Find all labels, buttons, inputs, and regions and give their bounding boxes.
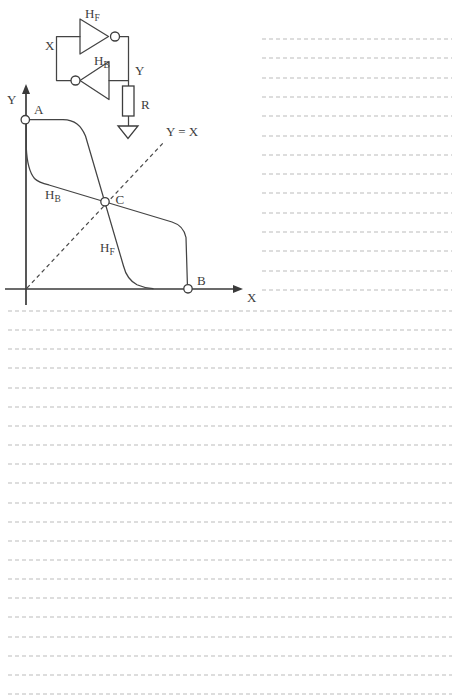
ruled-line: [262, 154, 452, 156]
ruled-line: [8, 329, 452, 331]
ruled-line: [262, 289, 452, 291]
point-b-label: B: [197, 273, 206, 288]
feedback-inverter-bubble-icon: [71, 76, 80, 85]
ruled-line: [262, 231, 452, 233]
ruled-line: [262, 115, 452, 117]
point-a-label: A: [34, 102, 44, 117]
ruled-line: [8, 387, 452, 389]
ruled-line: [8, 463, 452, 465]
y-axis-label: Y: [7, 92, 17, 107]
ruled-line: [8, 521, 452, 523]
ruled-line: [8, 482, 452, 484]
ruled-line: [8, 559, 452, 561]
node-x-label: X: [45, 38, 55, 53]
point-a-marker: [21, 116, 29, 124]
ruled-line: [8, 636, 452, 638]
forward-inverter-label: HF: [85, 6, 100, 23]
transfer-characteristic-graph: Y X Y = X HB HF A B C: [5, 84, 257, 305]
ruled-line: [262, 173, 452, 175]
ruled-line: [262, 192, 452, 194]
ruled-line: [262, 38, 452, 40]
ruled-line: [8, 655, 452, 657]
ruled-line: [262, 57, 452, 59]
y-axis-arrow-icon: [22, 84, 30, 94]
point-c-marker: [101, 198, 109, 206]
forward-curve-label: HF: [100, 240, 115, 257]
ruled-line: [8, 348, 452, 350]
ruled-line: [8, 502, 452, 504]
ruled-line: [262, 250, 452, 252]
resistor-symbol: [123, 86, 135, 116]
latch-circuit-schematic: HF HB X Y R: [45, 6, 150, 139]
notebook-page: HF HB X Y R Y X Y = X HB HF: [0, 0, 458, 697]
ruled-line: [8, 367, 452, 369]
ruled-line: [8, 616, 452, 618]
figure-canvas: HF HB X Y R Y X Y = X HB HF: [0, 0, 260, 312]
identity-line-label: Y = X: [166, 124, 199, 139]
ruled-line: [8, 444, 452, 446]
resistor-label: R: [141, 97, 150, 112]
forward-curve: [30, 120, 154, 289]
forward-inverter-triangle-icon: [80, 19, 109, 54]
point-c-label: C: [116, 192, 125, 207]
ruled-line: [262, 212, 452, 214]
x-axis-arrow-icon: [233, 285, 243, 293]
feedback-loop-wires: [57, 37, 129, 127]
ruled-line: [262, 96, 452, 98]
ruled-line: [8, 674, 452, 676]
ruled-line: [8, 406, 452, 408]
node-y-label: Y: [135, 63, 145, 78]
x-axis-label: X: [247, 290, 257, 305]
ruled-line: [262, 135, 452, 137]
feedback-inverter-label: HB: [94, 53, 110, 70]
ruled-line: [8, 578, 452, 580]
ground-symbol-icon: [118, 126, 138, 139]
ruled-line: [262, 270, 452, 272]
ruled-line: [8, 425, 452, 427]
feedback-curve-label: HB: [45, 187, 61, 204]
ruled-line: [8, 693, 452, 695]
ruled-line: [8, 597, 452, 599]
point-b-marker: [184, 285, 192, 293]
forward-inverter-bubble-icon: [111, 32, 120, 41]
ruled-line: [262, 77, 452, 79]
identity-line: [27, 142, 164, 288]
ruled-line: [8, 540, 452, 542]
